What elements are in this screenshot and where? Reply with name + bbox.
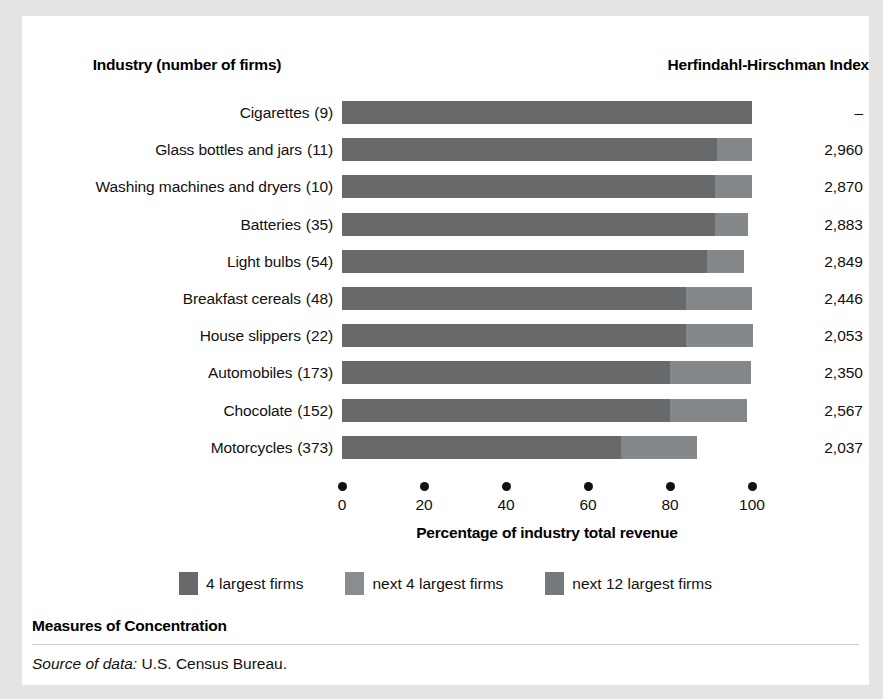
stacked-bar-chart: Cigarettes(9)–Glass bottles and jars(11)… bbox=[22, 94, 869, 466]
bar-segment-top4 bbox=[342, 436, 621, 459]
firm-count: (48) bbox=[306, 290, 333, 307]
industry-name: Automobiles bbox=[208, 364, 292, 381]
chart-row: Automobiles(173)2,350 bbox=[22, 354, 869, 391]
legend-item: next 12 largest firms bbox=[545, 572, 712, 595]
industry-label: Glass bottles and jars(11) bbox=[22, 131, 333, 168]
hhi-value: 2,849 bbox=[777, 243, 869, 280]
legend-swatch bbox=[179, 572, 198, 595]
industry-label: Batteries(35) bbox=[22, 206, 333, 243]
bar-segment-next4 bbox=[717, 138, 752, 161]
hhi-value: 2,883 bbox=[777, 206, 869, 243]
bar-segment-top4 bbox=[342, 175, 715, 198]
hhi-value: 2,870 bbox=[777, 168, 869, 205]
page-margin-left bbox=[0, 0, 22, 699]
firm-count: (22) bbox=[306, 327, 333, 344]
bar-track bbox=[342, 101, 752, 124]
industry-label: Automobiles(173) bbox=[22, 354, 333, 391]
chart-row: Cigarettes(9)– bbox=[22, 94, 869, 131]
chart-row: Motorcycles(373)2,037 bbox=[22, 429, 869, 466]
hhi-column-header: Herfindahl-Hirschman Index bbox=[449, 56, 869, 74]
legend-item: next 4 largest firms bbox=[345, 572, 503, 595]
industry-name: Glass bottles and jars bbox=[155, 141, 302, 158]
bar-track bbox=[342, 361, 752, 384]
industry-name: Light bulbs bbox=[227, 253, 301, 270]
figure-panel: Industry (number of firms) Herfindahl-Hi… bbox=[22, 16, 869, 685]
hhi-value: – bbox=[777, 94, 869, 131]
bar-segment-next4 bbox=[707, 250, 744, 273]
legend-label: 4 largest firms bbox=[206, 575, 303, 593]
firm-count: (152) bbox=[297, 402, 333, 419]
x-axis-title: Percentage of industry total revenue bbox=[342, 524, 752, 542]
x-axis: 020406080100 bbox=[342, 468, 752, 514]
bar-segment-next4 bbox=[670, 399, 747, 422]
firm-count: (35) bbox=[306, 216, 333, 233]
industry-label: Chocolate(152) bbox=[22, 392, 333, 429]
axis-tick-label: 0 bbox=[319, 496, 365, 514]
axis-tick-label: 100 bbox=[729, 496, 775, 514]
axis-tick-label: 20 bbox=[401, 496, 447, 514]
bar-track bbox=[342, 287, 752, 310]
legend-label: next 12 largest firms bbox=[572, 575, 712, 593]
hhi-value: 2,960 bbox=[777, 131, 869, 168]
bar-segment-top4 bbox=[342, 324, 686, 347]
bar-segment-top4 bbox=[342, 213, 715, 236]
axis-tick-label: 80 bbox=[647, 496, 693, 514]
industry-label: House slippers(22) bbox=[22, 317, 333, 354]
industry-name: Batteries bbox=[241, 216, 301, 233]
industry-label: Washing machines and dryers(10) bbox=[22, 168, 333, 205]
industry-label: Light bulbs(54) bbox=[22, 243, 333, 280]
chart-row: Glass bottles and jars(11)2,960 bbox=[22, 131, 869, 168]
axis-tick-dot bbox=[338, 482, 347, 491]
industry-name: Chocolate bbox=[223, 402, 292, 419]
bar-segment-next4 bbox=[686, 324, 753, 347]
hhi-value: 2,350 bbox=[777, 354, 869, 391]
chart-row: Light bulbs(54)2,849 bbox=[22, 243, 869, 280]
axis-tick-label: 40 bbox=[483, 496, 529, 514]
industry-name: Motorcycles bbox=[211, 439, 293, 456]
legend-swatch bbox=[345, 572, 364, 595]
bar-track bbox=[342, 213, 752, 236]
bar-segment-top4 bbox=[342, 138, 717, 161]
bar-segment-top4 bbox=[342, 399, 670, 422]
firm-count: (54) bbox=[306, 253, 333, 270]
source-label: Source of data: bbox=[32, 655, 137, 672]
industry-label: Breakfast cereals(48) bbox=[22, 280, 333, 317]
axis-tick-dot bbox=[502, 482, 511, 491]
industry-name: Breakfast cereals bbox=[183, 290, 301, 307]
chart-row: Washing machines and dryers(10)2,870 bbox=[22, 168, 869, 205]
firm-count: (373) bbox=[297, 439, 333, 456]
hhi-value: 2,053 bbox=[777, 317, 869, 354]
axis-tick-dot bbox=[666, 482, 675, 491]
bar-segment-top4 bbox=[342, 101, 752, 124]
bar-track bbox=[342, 250, 752, 273]
industry-name: Cigarettes bbox=[240, 104, 310, 121]
chart-row: House slippers(22)2,053 bbox=[22, 317, 869, 354]
source-value: U.S. Census Bureau. bbox=[141, 655, 287, 672]
bar-segment-next4 bbox=[621, 436, 698, 459]
legend-swatch bbox=[545, 572, 564, 595]
chart-row: Breakfast cereals(48)2,446 bbox=[22, 280, 869, 317]
axis-tick-label: 60 bbox=[565, 496, 611, 514]
bar-segment-top4 bbox=[342, 250, 707, 273]
figure-caption-title: Measures of Concentration bbox=[32, 617, 227, 635]
industry-label: Motorcycles(373) bbox=[22, 429, 333, 466]
hhi-value: 2,037 bbox=[777, 429, 869, 466]
bar-segment-top4 bbox=[342, 361, 670, 384]
axis-tick-dot bbox=[748, 482, 757, 491]
bar-track bbox=[342, 138, 752, 161]
bar-track bbox=[342, 436, 752, 459]
hhi-value: 2,567 bbox=[777, 392, 869, 429]
column-headers: Industry (number of firms) Herfindahl-Hi… bbox=[22, 56, 869, 82]
source-note: Source of data: U.S. Census Bureau. bbox=[32, 655, 287, 673]
axis-tick-dot bbox=[584, 482, 593, 491]
firm-count: (173) bbox=[297, 364, 333, 381]
industry-name: House slippers bbox=[200, 327, 301, 344]
bar-segment-next4 bbox=[715, 175, 752, 198]
bar-track bbox=[342, 324, 752, 347]
bar-segment-top4 bbox=[342, 287, 686, 310]
firm-count: (9) bbox=[314, 104, 333, 121]
bar-track bbox=[342, 399, 752, 422]
firm-count: (11) bbox=[307, 141, 333, 158]
bar-segment-next4 bbox=[686, 287, 752, 310]
bar-track bbox=[342, 175, 752, 198]
